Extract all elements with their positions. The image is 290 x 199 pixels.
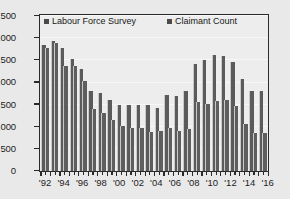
x-axis-tick-mark [149, 172, 150, 175]
bar [196, 102, 200, 171]
y-axis-tick-label: 2,500 [0, 54, 16, 65]
x-axis-tick-mark [249, 172, 250, 176]
x-axis-tick-mark [92, 172, 93, 175]
x-axis-tick-mark [220, 172, 221, 176]
x-axis-tick-mark [216, 172, 217, 175]
x-axis-tick-mark [45, 172, 46, 175]
legend-label: Labour Force Survey [52, 17, 136, 26]
x-axis-tick-mark [69, 172, 70, 176]
y-axis-tick-label: 3,000 [0, 32, 16, 43]
x-axis-tick-mark [178, 172, 179, 175]
bar [262, 133, 266, 171]
y-axis-tick-mark [34, 103, 39, 104]
x-axis-tick-mark [192, 172, 193, 176]
bar [45, 48, 49, 171]
bar [187, 129, 191, 171]
bar [139, 128, 143, 171]
bar [205, 104, 209, 171]
bar [177, 131, 181, 171]
bar [73, 66, 77, 171]
x-axis-tick-mark [40, 172, 41, 176]
x-axis-tick-mark [64, 172, 65, 175]
legend-item-labour-force-survey: Labour Force Survey [44, 17, 136, 26]
x-axis-tick-mark [107, 172, 108, 176]
x-axis-tick-mark [135, 172, 136, 176]
x-axis-tick-mark [201, 172, 202, 176]
x-axis-tick-mark [140, 172, 141, 175]
x-axis-tick-label: '16 [256, 177, 280, 188]
bar [92, 109, 96, 171]
x-axis-tick-mark [263, 172, 264, 175]
x-axis-tick-mark [173, 172, 174, 176]
x-axis-tick-mark [230, 172, 231, 176]
x-axis-tick-mark [50, 172, 51, 176]
y-axis-tick-label: 0 [0, 165, 16, 176]
y-axis-tick-mark [34, 148, 39, 149]
x-axis-tick-mark [78, 172, 79, 176]
x-axis-tick-mark [206, 172, 207, 175]
x-axis-tick-mark [258, 172, 259, 176]
x-axis-tick-mark [253, 172, 254, 175]
y-axis-tick-mark [34, 126, 39, 127]
bar [149, 132, 153, 171]
x-axis-tick-mark [83, 172, 84, 175]
x-axis-tick-mark [97, 172, 98, 176]
x-axis-tick-mark [102, 172, 103, 175]
x-axis-tick-mark [239, 172, 240, 176]
x-axis-tick-mark [163, 172, 164, 176]
x-axis-tick-mark [197, 172, 198, 175]
bar [158, 131, 162, 171]
x-axis-tick-mark [225, 172, 226, 175]
bar [243, 124, 247, 171]
plot-area [39, 14, 269, 172]
bar [82, 81, 86, 171]
legend-swatch-icon [44, 19, 49, 24]
x-axis-tick-mark [88, 172, 89, 176]
x-axis-tick-mark [121, 172, 122, 175]
legend-item-claimant-count: Claimant Count [167, 17, 237, 26]
y-axis-tick-mark [34, 170, 39, 171]
bar [224, 100, 228, 171]
bar [54, 43, 58, 171]
x-axis-tick-mark [211, 172, 212, 176]
x-axis-tick-mark [116, 172, 117, 176]
y-axis-tick-label: 2,000 [0, 76, 16, 87]
x-axis-tick-mark [268, 172, 269, 176]
y-axis-tick-mark [34, 37, 39, 38]
y-axis-tick-label: 1,500 [0, 99, 16, 110]
x-axis-tick-mark [244, 172, 245, 175]
y-axis-tick-mark [34, 15, 39, 16]
x-axis-tick-mark [159, 172, 160, 175]
bar [234, 106, 238, 171]
y-axis-tick-label: 500 [0, 143, 16, 154]
bar [101, 113, 105, 171]
bar [120, 126, 124, 171]
chart-legend: Labour Force Survey Claimant Count [44, 17, 237, 26]
x-axis-tick-mark [182, 172, 183, 176]
legend-label: Claimant Count [175, 17, 237, 26]
x-axis-tick-mark [130, 172, 131, 175]
x-axis-tick-mark [74, 172, 75, 175]
x-axis-tick-mark [145, 172, 146, 176]
x-axis-tick-mark [55, 172, 56, 175]
x-axis-tick-mark [234, 172, 235, 175]
x-axis-tick-mark [59, 172, 60, 176]
bar [215, 101, 219, 171]
x-axis-tick-mark [126, 172, 127, 176]
x-axis-tick-mark [154, 172, 155, 176]
y-axis-tick-mark [34, 59, 39, 60]
legend-swatch-icon [167, 19, 172, 24]
bar [63, 66, 67, 171]
bar [253, 133, 257, 171]
x-axis-tick-mark [187, 172, 188, 175]
bar [130, 128, 134, 171]
plot-inner [40, 15, 268, 171]
y-axis-tick-label: 1,000 [0, 121, 16, 132]
bars-layer [40, 15, 268, 171]
bar [168, 128, 172, 171]
chart-container: 05001,0001,5002,0002,5003,0003,500 Labou… [0, 0, 290, 199]
bar [111, 120, 115, 171]
y-axis-tick-label: 3,500 [0, 10, 16, 21]
y-axis-tick-mark [34, 81, 39, 82]
x-axis-tick-mark [111, 172, 112, 175]
